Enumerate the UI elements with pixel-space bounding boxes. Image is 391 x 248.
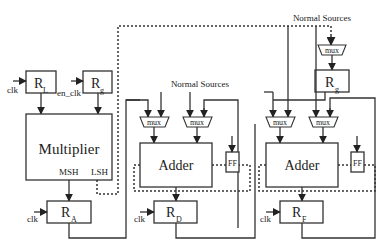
register-rd: R D <box>154 201 197 224</box>
lsh-label: LSH <box>91 167 109 177</box>
ra-label: R <box>61 205 71 220</box>
clk-label-rd: clk <box>134 214 145 224</box>
mux-mid-1: mux <box>140 117 169 127</box>
rg-left-sub: g <box>100 86 104 95</box>
adder-label: Adder <box>159 158 194 173</box>
rg-right-label: R <box>325 75 335 90</box>
feed-mux1-a <box>126 100 148 117</box>
clk-label-rl: clk <box>7 85 18 95</box>
ra-sub: A <box>71 215 77 224</box>
datapath-diagram: R L clk R g en_clk Multiplier MSH LSH R … <box>0 0 391 248</box>
mux-label: mux <box>273 118 287 127</box>
mux-label: mux <box>190 118 204 127</box>
ff-label: FF <box>228 159 237 168</box>
rf-label: R <box>292 205 302 220</box>
rg-right-sub: g <box>335 85 339 94</box>
adder-mid: Adder <box>140 143 212 187</box>
register-rl: R L <box>26 71 56 95</box>
ff-right: FF <box>351 152 364 172</box>
register-rg-right: R g <box>315 70 349 94</box>
rd-label: R <box>166 205 176 220</box>
adder-right: Adder <box>266 143 338 187</box>
mux-right-1: mux <box>266 117 295 127</box>
rg-to-mux <box>273 92 325 100</box>
en-clk-label: en_clk <box>57 88 81 98</box>
multiplier-label: Multiplier <box>39 141 100 157</box>
register-rg-left: R g <box>83 71 112 95</box>
register-ra: R A <box>47 201 91 224</box>
rl-sub: L <box>43 86 48 95</box>
ff-mid: FF <box>226 152 239 172</box>
rf-output-wire <box>302 223 375 238</box>
clk-label-rf: clk <box>260 214 271 224</box>
mux-right-2: mux <box>309 117 338 127</box>
normal-sources-label-mid: Normal Sources <box>171 79 230 89</box>
clk-label-ra: clk <box>27 214 38 224</box>
ff-label: FF <box>353 159 362 168</box>
multiplier-block: Multiplier MSH LSH <box>26 114 112 180</box>
rf-sub: F <box>302 215 307 224</box>
register-rf: R F <box>280 201 323 224</box>
mux-mid-2: mux <box>183 117 212 127</box>
adder-label: Adder <box>285 158 320 173</box>
rd-sub: D <box>176 215 182 224</box>
mux-label: mux <box>325 46 339 55</box>
msh-label: MSH <box>59 167 79 177</box>
mux-top-right: mux <box>318 45 346 55</box>
normal-sources-label-right: Normal Sources <box>293 13 352 23</box>
mux-label: mux <box>147 118 161 127</box>
mux-label: mux <box>316 118 330 127</box>
